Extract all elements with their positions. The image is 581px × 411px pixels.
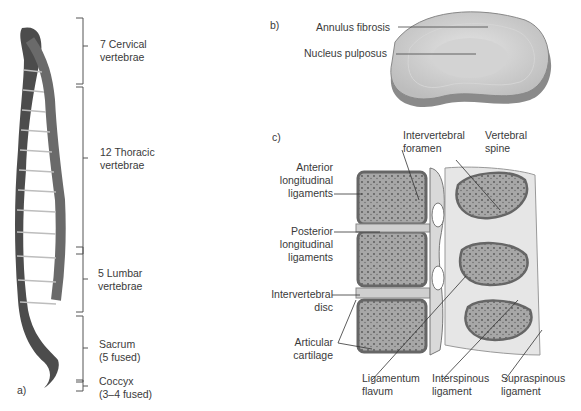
- label-line: 12 Thoracic: [100, 146, 155, 159]
- sacrum-label: Sacrum (5 fused): [99, 338, 140, 364]
- label-line: ligaments: [280, 251, 333, 264]
- diagram-canvas: [0, 0, 581, 411]
- label-line: Coccyx: [99, 375, 152, 388]
- label-line: Anterior: [280, 161, 333, 174]
- label-line: longitudinal: [280, 238, 333, 251]
- panel-c-tag: c): [272, 131, 281, 144]
- label-line: spine: [485, 142, 527, 155]
- spine-illustration: [15, 27, 61, 388]
- label-line: Intervertebral: [403, 129, 465, 142]
- nucleus-pulposus-label: Nucleus pulposus: [304, 47, 387, 60]
- label-line: Ligamentum: [362, 372, 420, 385]
- panel-a-tag: a): [17, 384, 26, 397]
- interspinous-ligament-label: Interspinous ligament: [432, 372, 489, 398]
- thoracic-label: 12 Thoracic vertebrae: [100, 146, 155, 172]
- label-line: vertebrae: [98, 280, 142, 293]
- anterior-longitudinal-ligaments-label: Anterior longitudinal ligaments: [280, 161, 333, 200]
- label-line: vertebrae: [100, 51, 147, 64]
- cervical-label: 7 Cervical vertebrae: [100, 38, 147, 64]
- label-line: (3–4 fused): [99, 388, 152, 401]
- label-line: Intervertebral: [271, 288, 333, 301]
- label-line: Interspinous: [432, 372, 489, 385]
- label-line: Sacrum: [99, 338, 140, 351]
- posterior-longitudinal-ligaments-label: Posterior longitudinal ligaments: [280, 225, 333, 264]
- label-line: ligament: [501, 385, 565, 398]
- label-line: ligaments: [280, 187, 333, 200]
- label-line: vertebrae: [100, 159, 155, 172]
- intervertebral-disc-label: Intervertebral disc: [271, 288, 333, 314]
- label-line: Posterior: [280, 225, 333, 238]
- coccyx-label: Coccyx (3–4 fused): [99, 375, 152, 401]
- ligamentum-flavum-label: Ligamentum flavum: [362, 372, 420, 398]
- label-line: 7 Cervical: [100, 38, 147, 51]
- supraspinous-ligament-label: Supraspinous ligament: [501, 372, 565, 398]
- lumbar-label: 5 Lumbar vertebrae: [98, 267, 142, 293]
- label-line: Vertebral: [485, 129, 527, 142]
- label-line: longitudinal: [280, 174, 333, 187]
- vertebral-spine-label: Vertebral spine: [485, 129, 527, 155]
- label-line: disc: [271, 301, 333, 314]
- articular-cartilage-label: Articular cartilage: [293, 336, 333, 362]
- label-line: flavum: [362, 385, 420, 398]
- disc-illustration: [391, 12, 551, 107]
- label-line: Supraspinous: [501, 372, 565, 385]
- region-brackets: [76, 18, 88, 391]
- panel-b-tag: b): [270, 19, 279, 32]
- label-line: (5 fused): [99, 351, 140, 364]
- label-line: 5 Lumbar: [98, 267, 142, 280]
- label-line: Articular: [293, 336, 333, 349]
- label-line: foramen: [403, 142, 465, 155]
- vertebrae-illustration: [356, 167, 540, 355]
- label-line: ligament: [432, 385, 489, 398]
- annulus-fibrosis-label: Annulus fibrosis: [316, 21, 390, 34]
- intervertebral-foramen-label: Intervertebral foramen: [403, 129, 465, 155]
- label-line: cartilage: [293, 349, 333, 362]
